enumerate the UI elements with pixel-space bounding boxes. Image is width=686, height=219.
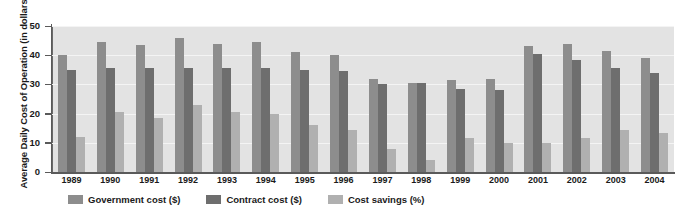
bar-group [169, 26, 208, 172]
y-axis-title: Average Daily Cost of Operation (in doll… [18, 19, 29, 189]
bar [309, 125, 318, 172]
bar [426, 160, 435, 172]
y-tick-mark [45, 26, 51, 28]
legend-item: Government cost ($) [68, 194, 180, 205]
bar [369, 79, 378, 172]
bar [447, 80, 456, 172]
bar-group [52, 26, 91, 172]
bar [330, 55, 339, 172]
bar [524, 46, 533, 172]
bar-group [441, 26, 480, 172]
x-axis-label: 1994 [246, 175, 285, 185]
bar [504, 143, 513, 172]
bar [495, 90, 504, 172]
bar [145, 68, 154, 172]
bar-group [363, 26, 402, 172]
x-axis-label: 1997 [363, 175, 402, 185]
bar [339, 71, 348, 172]
x-axis-labels: 1989199019911992199319941995199619971998… [52, 175, 674, 185]
bar [261, 68, 270, 172]
bar [408, 83, 417, 172]
x-axis-label: 1995 [285, 175, 324, 185]
bar-group [246, 26, 285, 172]
bar [486, 79, 495, 172]
bar-chart: Average Daily Cost of Operation (in doll… [0, 0, 686, 219]
y-tick-label: 40 [0, 49, 40, 60]
bar [136, 45, 145, 172]
legend-label: Government cost ($) [88, 194, 180, 205]
x-axis-label: 1993 [208, 175, 247, 185]
bar [76, 137, 85, 172]
bar [650, 73, 659, 172]
x-axis-label: 1990 [91, 175, 130, 185]
bar [620, 130, 629, 172]
bar-groups [52, 26, 674, 172]
bar-group [91, 26, 130, 172]
bar [154, 118, 163, 172]
bar [184, 68, 193, 172]
bar-group [208, 26, 247, 172]
bar [581, 138, 590, 172]
y-tick-mark [45, 172, 51, 174]
x-axis-line [51, 172, 675, 174]
legend-swatch-icon [68, 195, 83, 204]
x-axis-label: 1996 [324, 175, 363, 185]
bar [58, 55, 67, 172]
bar [465, 138, 474, 172]
bar [106, 68, 115, 172]
legend-label: Cost savings (%) [348, 194, 425, 205]
x-axis-label: 2001 [519, 175, 558, 185]
y-tick-label: 0 [0, 166, 40, 177]
bar [572, 60, 581, 172]
bar-group [324, 26, 363, 172]
bar-group [285, 26, 324, 172]
legend-swatch-icon [206, 195, 221, 204]
x-axis-label: 1998 [402, 175, 441, 185]
y-tick-mark [45, 84, 51, 86]
bar [611, 68, 620, 172]
bar [417, 83, 426, 172]
bar [231, 112, 240, 172]
bar-group [130, 26, 169, 172]
bar [115, 112, 124, 172]
bar [378, 84, 387, 172]
bar [387, 149, 396, 172]
x-axis-label: 2003 [596, 175, 635, 185]
bar [213, 44, 222, 172]
bar [193, 105, 202, 172]
bar [659, 133, 668, 172]
bar [222, 68, 231, 172]
bar [97, 42, 106, 172]
bar [563, 44, 572, 172]
x-axis-label: 1992 [169, 175, 208, 185]
bar [456, 89, 465, 172]
legend-swatch-icon [328, 195, 343, 204]
x-axis-label: 1991 [130, 175, 169, 185]
y-tick-label: 10 [0, 137, 40, 148]
x-axis-label: 1989 [52, 175, 91, 185]
bar-group [519, 26, 558, 172]
bar [602, 51, 611, 172]
bar-group [635, 26, 674, 172]
bar-group [480, 26, 519, 172]
bar-group [557, 26, 596, 172]
bar [533, 54, 542, 172]
x-axis-label: 1999 [441, 175, 480, 185]
bar [291, 52, 300, 172]
legend-item: Contract cost ($) [206, 194, 301, 205]
y-tick-label: 50 [0, 20, 40, 31]
y-tick-label: 20 [0, 108, 40, 119]
bar-group [402, 26, 441, 172]
bar [300, 70, 309, 172]
y-tick-label: 30 [0, 78, 40, 89]
bar [67, 70, 76, 172]
bar [252, 42, 261, 172]
bar-group [596, 26, 635, 172]
bar [270, 114, 279, 172]
bar [348, 130, 357, 172]
y-tick-mark [45, 142, 51, 144]
bar [175, 38, 184, 172]
x-axis-label: 2004 [635, 175, 674, 185]
x-axis-label: 2002 [557, 175, 596, 185]
bar [542, 143, 551, 172]
